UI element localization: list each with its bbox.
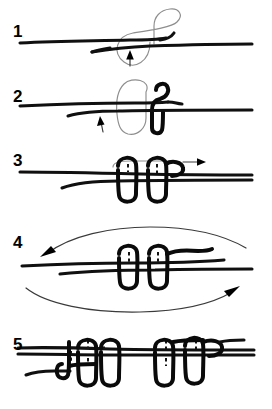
bight-left xyxy=(69,364,96,366)
knot-diagram: 1 2 xyxy=(0,0,272,409)
step-panel-5: 5 xyxy=(0,318,272,409)
standing-line-upper xyxy=(20,38,166,43)
right-arrow-icon xyxy=(183,158,206,166)
coil-r2 xyxy=(185,338,203,384)
right-arrow-icon xyxy=(26,286,240,312)
bight-right xyxy=(173,340,203,342)
step-2-illustration xyxy=(0,70,272,140)
line-right-exit xyxy=(168,102,182,104)
step-panel-4: 4 xyxy=(0,218,272,318)
tail-left xyxy=(26,371,70,375)
standing-line-lower xyxy=(62,180,252,188)
step-5-illustration xyxy=(0,318,272,409)
step-panel-3: 3 xyxy=(0,140,272,218)
step-number-1: 1 xyxy=(13,23,22,40)
working-end-hook xyxy=(160,33,174,40)
tail-right xyxy=(220,340,244,342)
step-number-3: 3 xyxy=(13,152,22,169)
standing-line-lower xyxy=(60,269,252,274)
coil-r1 xyxy=(155,340,173,386)
standing-line-lower xyxy=(68,110,252,116)
up-arrow-icon xyxy=(97,116,105,132)
step-1-illustration xyxy=(0,0,272,70)
step-4-illustration xyxy=(0,218,272,318)
standing-line-upper xyxy=(18,348,254,350)
ghost-loop-icon xyxy=(117,80,148,134)
step-number-5: 5 xyxy=(13,336,22,353)
step-panel-2: 2 xyxy=(0,70,272,140)
coil-1 xyxy=(152,84,168,133)
standing-line-upper xyxy=(22,260,224,266)
step-number-2: 2 xyxy=(13,88,22,105)
working-end-exit xyxy=(167,249,212,254)
standing-line-lower xyxy=(92,44,252,52)
step-number-4: 4 xyxy=(13,234,22,251)
step-panel-1: 1 xyxy=(0,0,272,70)
step-3-illustration xyxy=(0,140,272,218)
left-arrow-icon xyxy=(40,227,246,257)
